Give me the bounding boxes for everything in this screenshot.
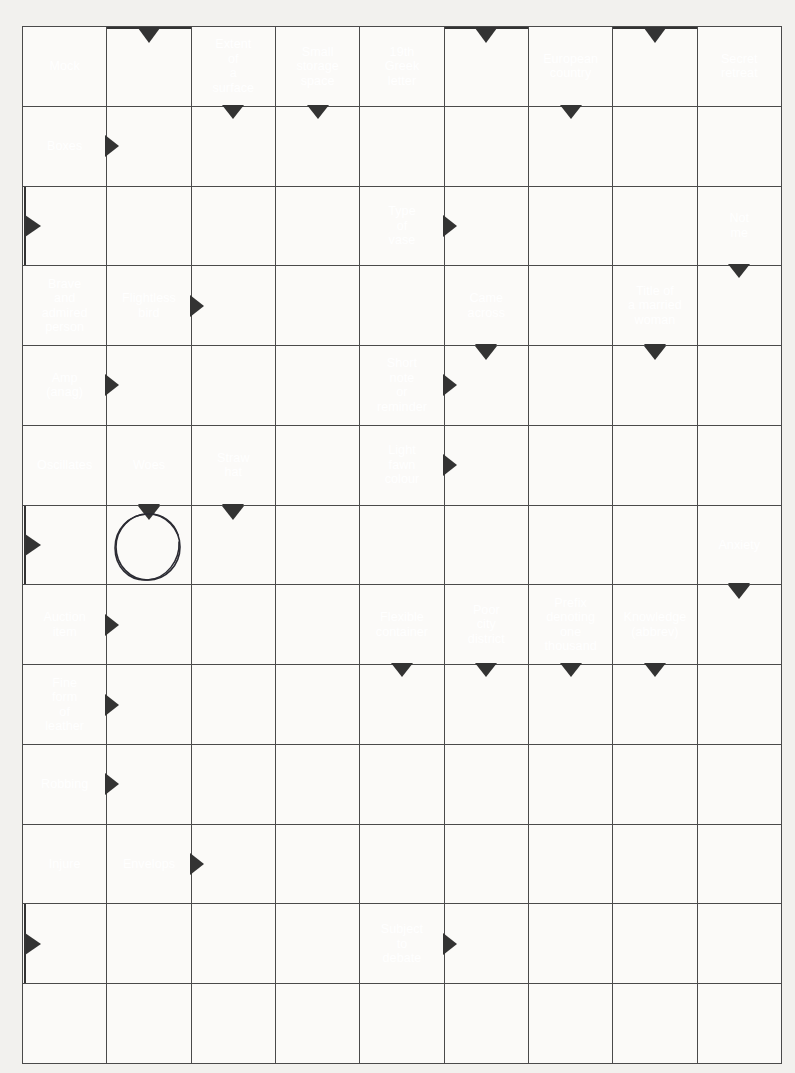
answer-cell-r6c6[interactable] [444, 425, 528, 505]
clue-cell-brave-person[interactable]: Brave and admired person [23, 266, 107, 346]
clue-cell-flexible-container[interactable]: Flexible container [360, 585, 444, 665]
answer-cell-r3c6[interactable] [444, 186, 528, 266]
clue-cell-secret-retreat[interactable]: Secret retreat [697, 27, 781, 107]
answer-cell-r13c1[interactable] [23, 984, 107, 1064]
answer-cell-r1c8[interactable] [613, 27, 697, 107]
clue-cell-anxiety[interactable]: Anxiety [697, 505, 781, 585]
answer-cell-r7c6[interactable] [444, 505, 528, 585]
clue-cell-mock[interactable]: Mock [23, 27, 107, 107]
answer-cell-r7c2[interactable] [107, 505, 191, 585]
clue-cell-title-married-woman[interactable]: Title of a married woman [613, 266, 697, 346]
answer-cell-r13c9[interactable] [697, 984, 781, 1064]
clue-cell-light-fawn-colour[interactable]: Light fawn colour [360, 425, 444, 505]
clue-cell-robbing[interactable]: Robbing [23, 744, 107, 824]
clue-cell-greek-letter[interactable]: 19th Greek letter [360, 27, 444, 107]
answer-cell-r13c5[interactable] [360, 984, 444, 1064]
clue-cell-knowledge-abbrev[interactable]: Knowledge (abbrev) [613, 585, 697, 665]
answer-cell-r10c2[interactable] [107, 744, 191, 824]
answer-cell-r5c7[interactable] [528, 346, 612, 426]
answer-cell-r6c9[interactable] [697, 425, 781, 505]
answer-cell-r9c4[interactable] [275, 665, 359, 745]
answer-cell-r12c2[interactable] [107, 904, 191, 984]
clue-cell-came-across[interactable]: Came across [444, 266, 528, 346]
answer-cell-r12c9[interactable] [697, 904, 781, 984]
clue-cell-flightless-bird[interactable]: Flightless bird [107, 266, 191, 346]
answer-cell-r10c4[interactable] [275, 744, 359, 824]
clue-cell-woes[interactable]: Woes [107, 425, 191, 505]
answer-cell-r3c2[interactable] [107, 186, 191, 266]
clue-cell-envelops[interactable]: Envelops [107, 824, 191, 904]
answer-cell-r12c1[interactable] [23, 904, 107, 984]
answer-cell-r5c8[interactable] [613, 346, 697, 426]
answer-cell-r3c1[interactable] [23, 186, 107, 266]
answer-cell-r10c8[interactable] [613, 744, 697, 824]
clue-cell-small-storage-space[interactable]: Small storage space [275, 27, 359, 107]
answer-cell-r11c9[interactable] [697, 824, 781, 904]
answer-cell-r6c7[interactable] [528, 425, 612, 505]
answer-cell-r11c8[interactable] [613, 824, 697, 904]
answer-cell-r6c8[interactable] [613, 425, 697, 505]
clue-cell-prefix-one-thousand[interactable]: Prefix denoting one thousand [528, 585, 612, 665]
answer-cell-r3c4[interactable] [275, 186, 359, 266]
answer-cell-r5c6[interactable] [444, 346, 528, 426]
answer-cell-r12c6[interactable] [444, 904, 528, 984]
answer-cell-r5c4[interactable] [275, 346, 359, 426]
answer-cell-r2c2[interactable] [107, 106, 191, 186]
answer-cell-r12c4[interactable] [275, 904, 359, 984]
clue-cell-amp-anag[interactable]: Amp (anag) [23, 346, 107, 426]
answer-cell-r5c9[interactable] [697, 346, 781, 426]
clue-cell-poor-city-district[interactable]: Poor city district [444, 585, 528, 665]
clue-cell-not-me[interactable]: Not me [697, 186, 781, 266]
answer-cell-r10c3[interactable] [191, 744, 275, 824]
answer-cell-r2c9[interactable] [697, 106, 781, 186]
answer-cell-r11c3[interactable] [191, 824, 275, 904]
answer-cell-r10c6[interactable] [444, 744, 528, 824]
answer-cell-r10c7[interactable] [528, 744, 612, 824]
answer-cell-r12c7[interactable] [528, 904, 612, 984]
answer-cell-r13c6[interactable] [444, 984, 528, 1064]
clue-cell-short-note[interactable]: Short note or reminder [360, 346, 444, 426]
answer-cell-r8c3[interactable] [191, 585, 275, 665]
crossword-puzzle[interactable]: Mock Extent of a surface Small storage s… [22, 26, 772, 1050]
answer-cell-r7c1[interactable] [23, 505, 107, 585]
answer-cell-r9c3[interactable] [191, 665, 275, 745]
answer-cell-r3c3[interactable] [191, 186, 275, 266]
answer-cell-r7c8[interactable] [613, 505, 697, 585]
answer-cell-r8c4[interactable] [275, 585, 359, 665]
answer-cell-r12c3[interactable] [191, 904, 275, 984]
clue-cell-fine-leather[interactable]: Fine form of leather [23, 665, 107, 745]
answer-cell-r4c5[interactable] [360, 266, 444, 346]
answer-cell-r11c4[interactable] [275, 824, 359, 904]
answer-cell-r12c8[interactable] [613, 904, 697, 984]
answer-cell-r4c7[interactable] [528, 266, 612, 346]
answer-cell-r3c7[interactable] [528, 186, 612, 266]
crossword-grid[interactable]: Mock Extent of a surface Small storage s… [22, 26, 782, 1064]
clue-cell-type-of-vase[interactable]: Type of vase [360, 186, 444, 266]
answer-cell-r11c6[interactable] [444, 824, 528, 904]
answer-cell-r9c2[interactable] [107, 665, 191, 745]
clue-cell-subject-to-debate[interactable]: Subject to debate [360, 904, 444, 984]
answer-cell-r10c5[interactable] [360, 744, 444, 824]
clue-cell-boxes[interactable]: Boxes [23, 106, 107, 186]
clue-cell-injure[interactable]: Injure [23, 824, 107, 904]
answer-cell-r13c3[interactable] [191, 984, 275, 1064]
answer-cell-r2c8[interactable] [613, 106, 697, 186]
answer-cell-r10c9[interactable] [697, 744, 781, 824]
answer-cell-r11c5[interactable] [360, 824, 444, 904]
answer-cell-r5c3[interactable] [191, 346, 275, 426]
answer-cell-r7c5[interactable] [360, 505, 444, 585]
clue-cell-straw-hat[interactable]: Straw hat [191, 425, 275, 505]
answer-cell-r13c7[interactable] [528, 984, 612, 1064]
answer-cell-r7c7[interactable] [528, 505, 612, 585]
answer-cell-r4c3[interactable] [191, 266, 275, 346]
answer-cell-r7c3[interactable] [191, 505, 275, 585]
answer-cell-r2c6[interactable] [444, 106, 528, 186]
answer-cell-r8c9[interactable] [697, 585, 781, 665]
answer-cell-r4c4[interactable] [275, 266, 359, 346]
clue-cell-oscillates[interactable]: Oscillates [23, 425, 107, 505]
answer-cell-r13c4[interactable] [275, 984, 359, 1064]
answer-cell-r11c7[interactable] [528, 824, 612, 904]
answer-cell-r8c2[interactable] [107, 585, 191, 665]
clue-cell-extent-of-a-surface[interactable]: Extent of a surface [191, 27, 275, 107]
answer-cell-r2c5[interactable] [360, 106, 444, 186]
